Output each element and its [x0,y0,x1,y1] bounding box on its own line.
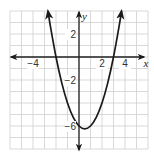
y-tick-label: −2 [65,75,77,86]
x-tick-label: 2 [99,58,105,69]
parabola-path [48,11,122,129]
x-axis-label: x [143,57,149,69]
coordinate-plane: −4242−2−6xy [0,0,154,158]
y-tick-label: 2 [70,29,76,40]
y-axis-label: y [81,10,87,22]
tick-labels: −4242−2−6xy [27,10,149,132]
x-tick-label: −4 [27,58,39,69]
x-tick-label: 4 [122,58,128,69]
y-tick-label: −6 [65,121,77,132]
parabola-curve [48,11,122,129]
axes [11,12,144,150]
